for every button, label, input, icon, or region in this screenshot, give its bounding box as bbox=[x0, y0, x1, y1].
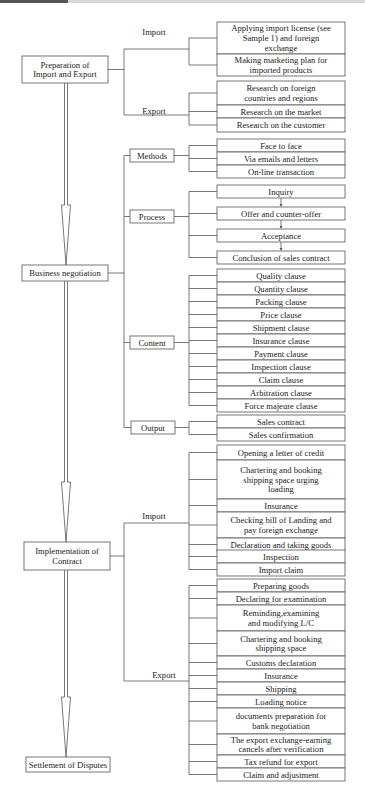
item-box-label: loading bbox=[268, 484, 294, 494]
item-box-label: Chartering and booking bbox=[240, 465, 322, 475]
item-box-label: Making marketing plan for bbox=[235, 55, 328, 65]
item-box-label: bank negotiation bbox=[252, 721, 310, 731]
item-box-label: Sales contract bbox=[257, 417, 306, 427]
group-label: Export bbox=[142, 106, 166, 116]
item-box-label: countries and regions bbox=[244, 93, 318, 103]
stage-box-label: Preparation of bbox=[41, 60, 90, 70]
stage-box-label: Business negotiation bbox=[29, 268, 101, 278]
item-box-label: Research on the customer bbox=[237, 120, 326, 130]
stage-box-label: Implementation of bbox=[35, 546, 99, 556]
group-label: Output bbox=[141, 423, 165, 433]
item-box-label: Shipping bbox=[265, 684, 297, 694]
item-box-label: Preparing goods bbox=[253, 581, 310, 591]
item-box-label: Research on foreign bbox=[246, 83, 316, 93]
stage-box-label: Import and Export bbox=[33, 69, 97, 79]
item-box-label: Inspection clause bbox=[251, 362, 311, 372]
item-box-label: Tax refund for export bbox=[244, 757, 318, 767]
flow-arrow-icon bbox=[62, 281, 71, 542]
item-box-label: On-line transaction bbox=[248, 167, 315, 177]
item-box-label: Quantity clause bbox=[254, 284, 308, 294]
item-box-label: imported products bbox=[250, 65, 313, 75]
item-box-label: and modifying L/C bbox=[248, 618, 314, 628]
group-label: Import bbox=[142, 27, 166, 37]
item-box-label: Loading notice bbox=[255, 697, 307, 707]
item-box-label: Sales confirmation bbox=[249, 430, 314, 440]
item-box-label: Import claim bbox=[259, 565, 304, 575]
item-box-label: pay foreign exchange bbox=[244, 525, 318, 535]
item-box-label: Quality clause bbox=[256, 271, 306, 281]
item-box-label: Inspection bbox=[263, 552, 300, 562]
flow-arrow-icon bbox=[62, 83, 71, 265]
item-box-label: Customs declaration bbox=[246, 658, 317, 668]
item-box-label: Shipment clause bbox=[253, 323, 310, 333]
item-box-label: Chartering and booking bbox=[240, 634, 322, 644]
item-box-label: Reminding,examining bbox=[243, 608, 320, 618]
item-box-label: The export exchange-earning bbox=[231, 735, 332, 745]
item-box-label: Declaration and taking goods bbox=[231, 540, 333, 550]
item-box-label: documents preparation for bbox=[236, 711, 327, 721]
group-label: Export bbox=[152, 670, 176, 680]
group-label: Content bbox=[138, 338, 166, 348]
item-box-label: Payment clause bbox=[254, 349, 308, 359]
flow-arrow-icon bbox=[62, 570, 71, 757]
arrow-down-icon bbox=[280, 248, 283, 251]
item-box-label: shipping space urging bbox=[243, 475, 319, 485]
arrow-down-icon bbox=[280, 204, 283, 207]
item-box-label: Sample 1) and foreign bbox=[243, 33, 320, 43]
arrow-down-icon bbox=[280, 226, 283, 229]
item-box-label: Via emails and letters bbox=[244, 154, 319, 164]
item-box-label: Offer and counter-offer bbox=[241, 209, 321, 219]
item-box-label: Packing clause bbox=[255, 297, 306, 307]
item-box-label: Opening a letter of credit bbox=[238, 448, 325, 458]
item-box-label: Acceptance bbox=[261, 231, 301, 241]
item-box-label: Research on the market bbox=[241, 107, 323, 117]
stage-box-label: Settlement of Disputes bbox=[29, 760, 108, 770]
item-box-label: shipping space bbox=[256, 643, 307, 653]
item-box-label: Claim and adjustment bbox=[243, 770, 319, 780]
item-box-label: Insurance clause bbox=[252, 336, 309, 346]
group-label: Methods bbox=[137, 151, 168, 161]
item-box-label: Insurance bbox=[264, 671, 298, 681]
group-label: Import bbox=[142, 511, 166, 521]
item-box-label: Declaring for examination bbox=[236, 594, 327, 604]
stage-box-label: Contract bbox=[52, 556, 82, 566]
item-box-label: Applying import license (see bbox=[231, 23, 331, 33]
item-box-label: Force majeure clause bbox=[244, 401, 317, 411]
item-box-label: cancels after verification bbox=[239, 744, 325, 754]
item-box-label: Claim clause bbox=[259, 375, 304, 385]
item-box-label: exchange bbox=[265, 43, 298, 53]
group-label: Process bbox=[139, 212, 166, 222]
item-box-label: Insurance bbox=[264, 501, 298, 511]
flowchart-diagram: Preparation ofImport and ExportApplying … bbox=[0, 0, 365, 801]
item-box-label: Checking bill of Landing and bbox=[230, 515, 332, 525]
item-box-label: Inquiry bbox=[268, 187, 294, 197]
item-box-label: Price clause bbox=[260, 310, 301, 320]
item-box-label: Conclusion of sales contract bbox=[232, 253, 330, 263]
item-box-label: Face to face bbox=[260, 141, 302, 151]
item-box-label: Arbitration clause bbox=[250, 388, 312, 398]
